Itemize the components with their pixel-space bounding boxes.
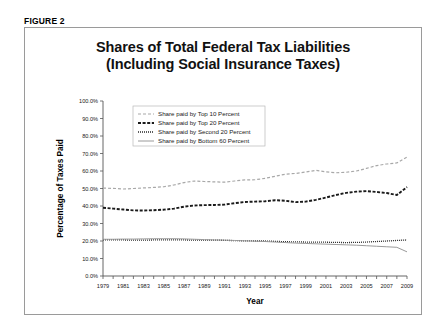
x-tick-label: 2003 xyxy=(340,283,352,289)
series-line xyxy=(103,187,407,210)
y-tick-label: 80.0% xyxy=(82,133,98,139)
legend-label: Share paid by Bottom 60 Percent xyxy=(158,137,249,144)
y-tick-label: 20.0% xyxy=(82,238,98,244)
legend-label: Share paid by Top 20 Percent xyxy=(158,119,240,126)
series-line xyxy=(103,239,407,252)
y-tick-label: 50.0% xyxy=(82,186,98,192)
y-tick-label: 60.0% xyxy=(82,168,98,174)
x-tick-label: 1985 xyxy=(158,283,170,289)
x-tick-label: 1979 xyxy=(97,283,109,289)
x-tick-label: 2001 xyxy=(320,283,332,289)
y-tick-label: 10.0% xyxy=(82,256,98,262)
y-axis-title: Percentage of Taxes Paid xyxy=(56,139,65,238)
x-tick-label: 1989 xyxy=(198,283,210,289)
x-tick-label: 1995 xyxy=(259,283,271,289)
legend-label: Share paid by Second 20 Percent xyxy=(158,128,251,135)
x-tick-label: 1999 xyxy=(299,283,311,289)
x-tick-label: 1991 xyxy=(218,283,230,289)
y-tick-label: 40.0% xyxy=(82,203,98,209)
x-tick-label: 1983 xyxy=(137,283,149,289)
line-chart-plot: 0.0%10.0%20.0%30.0%40.0%50.0%60.0%70.0%8… xyxy=(25,28,421,314)
x-tick-label: 1987 xyxy=(178,283,190,289)
y-tick-label: 100.0% xyxy=(79,98,98,104)
y-tick-label: 0.0% xyxy=(85,273,98,279)
x-tick-label: 2005 xyxy=(360,283,372,289)
y-tick-label: 90.0% xyxy=(82,116,98,122)
x-axis-title: Year xyxy=(246,297,264,306)
x-tick-label: 1981 xyxy=(117,283,129,289)
y-tick-label: 30.0% xyxy=(82,221,98,227)
figure-label: FIGURE 2 xyxy=(24,16,65,26)
y-tick-label: 70.0% xyxy=(82,151,98,157)
series-line xyxy=(103,157,407,189)
x-tick-label: 2007 xyxy=(381,283,393,289)
x-tick-label: 2009 xyxy=(401,283,413,289)
chart-frame: Shares of Total Federal Tax Liabilities … xyxy=(24,27,422,315)
x-tick-label: 1997 xyxy=(279,283,291,289)
legend-label: Share paid by Top 10 Percent xyxy=(158,110,240,117)
figure-container: FIGURE 2 Shares of Total Federal Tax Lia… xyxy=(0,0,446,331)
x-tick-label: 1993 xyxy=(239,283,251,289)
